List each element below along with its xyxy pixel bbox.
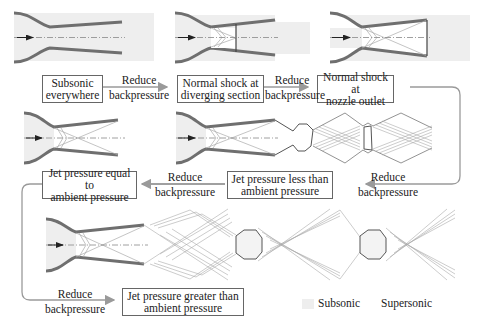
- transition-label-4: Reducebackpressure: [152, 171, 218, 199]
- stage-box-subsonic: Subsoniceverywhere: [42, 75, 103, 103]
- nozzle-jet-greater: [46, 209, 455, 280]
- legend-subsonic-label: Subsonic: [318, 297, 360, 310]
- nozzle-flow-diagram: [0, 0, 484, 331]
- stage-box-shock-diverging: Normal shock atdiverging section: [177, 75, 264, 103]
- legend-subsonic-swatch: [302, 299, 314, 309]
- stage-box-shock-outlet: Normal shock atnozzle outlet: [317, 75, 394, 103]
- nozzle-shock-outlet: [330, 13, 470, 62]
- transition-label-2: Reducebackpressure: [265, 74, 319, 102]
- legend-supersonic-label: Supersonic: [381, 297, 432, 310]
- stage-box-jet-equal: Jet pressure equal toambient pressure: [42, 171, 137, 199]
- nozzle-jet-equal: [24, 113, 125, 163]
- transition-label-5: Reducebackpressure: [42, 288, 108, 316]
- nozzle-jet-less: [176, 113, 432, 163]
- stage-box-jet-greater: Jet pressure greater thanambient pressur…: [122, 288, 244, 316]
- nozzle-shock-diverging: [175, 13, 310, 62]
- nozzle-subsonic: [14, 13, 154, 62]
- transition-label-3: Reducebackpressure: [355, 171, 421, 199]
- transition-label-1: Reducebackpressure: [107, 74, 171, 102]
- stage-box-jet-less: Jet pressure less thanambient pressure: [227, 171, 333, 199]
